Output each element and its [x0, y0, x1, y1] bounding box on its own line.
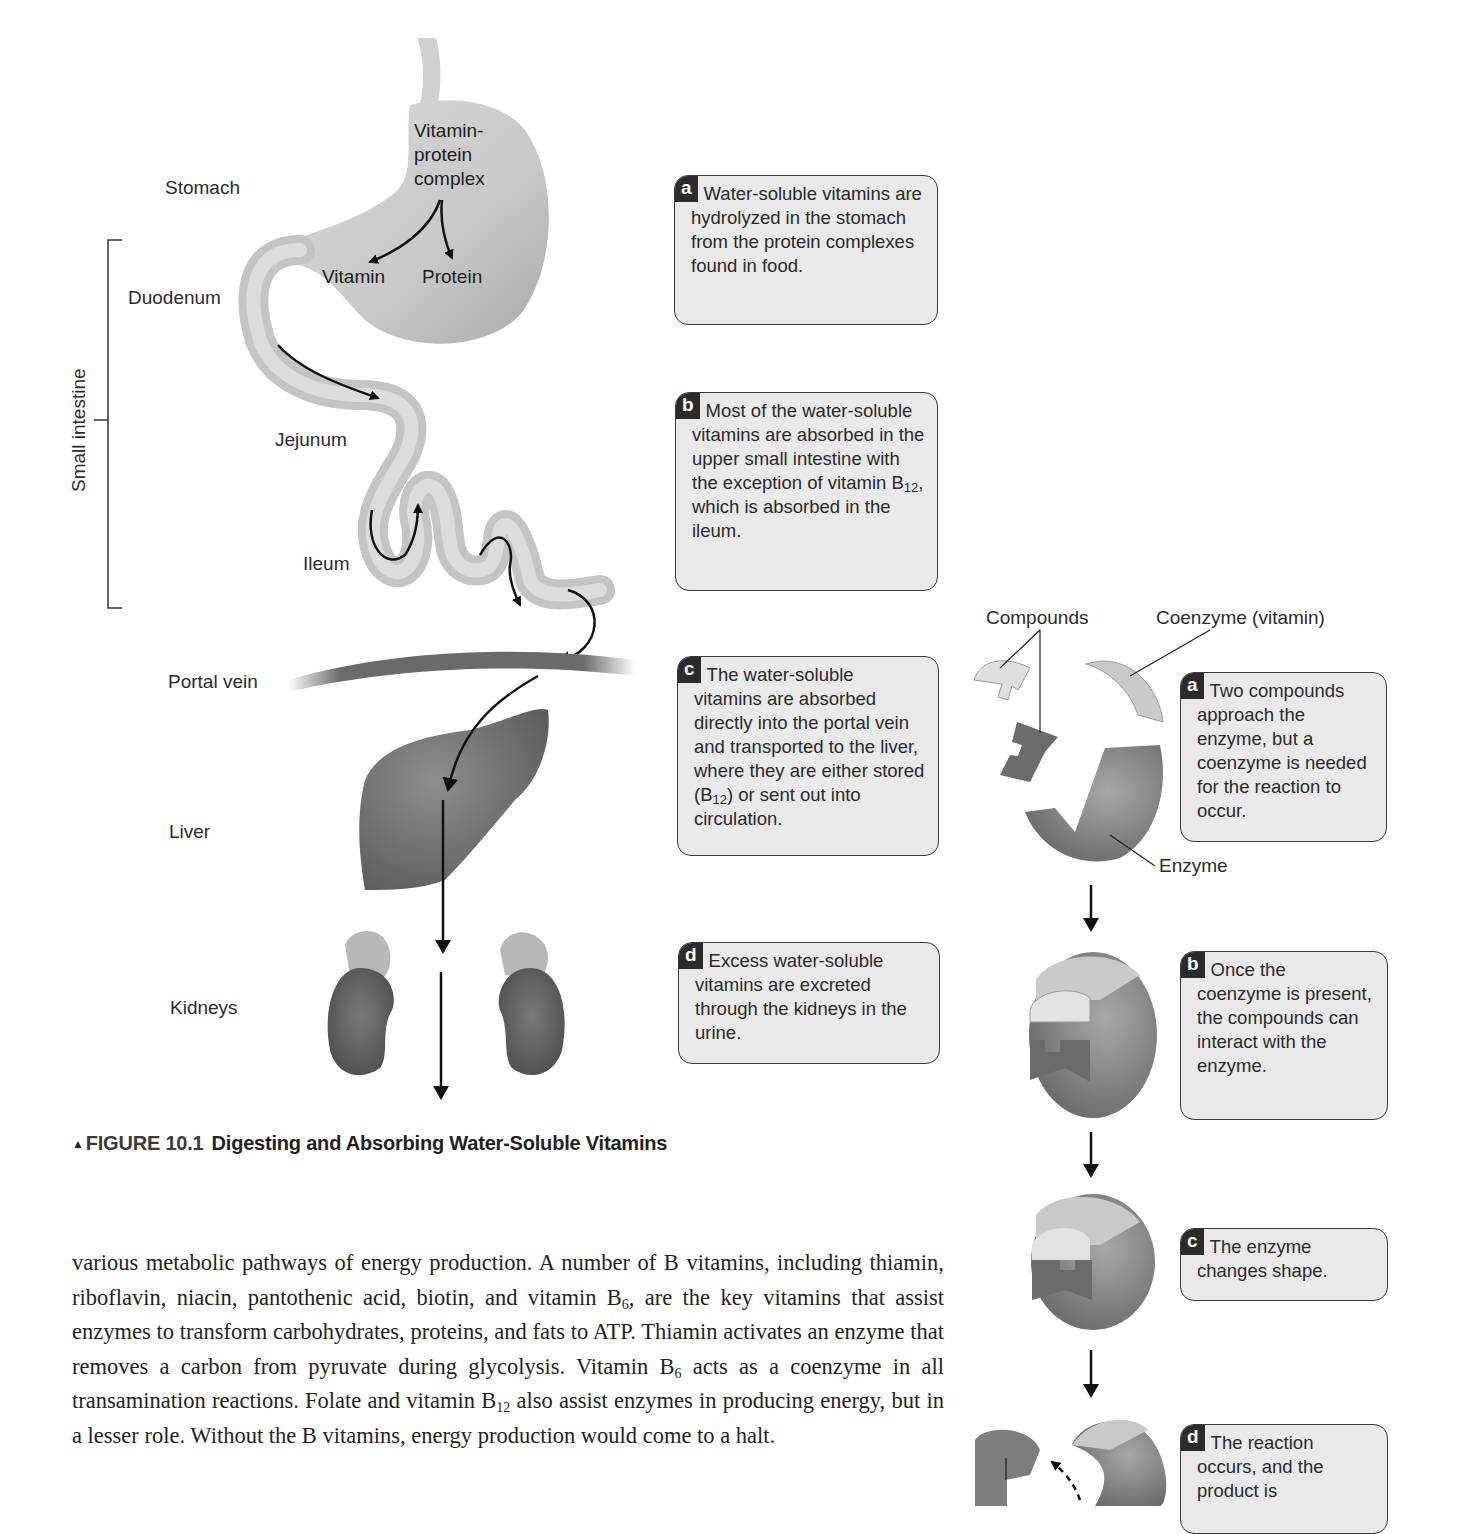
label-vitamin: Vitamin	[322, 265, 385, 289]
dashed-arrow-product	[1052, 1462, 1080, 1500]
label-kidneys: Kidneys	[170, 997, 238, 1019]
label-ileum: Ileum	[303, 553, 349, 575]
kidney-left	[328, 968, 394, 1075]
label-duodenum: Duodenum	[128, 287, 221, 309]
figure-title: Digesting and Absorbing Water-Soluble Vi…	[212, 1132, 668, 1154]
label-portal-vein: Portal vein	[168, 671, 258, 693]
product-shape	[975, 1430, 1040, 1506]
label-compounds: Compounds	[986, 607, 1088, 629]
portal-vein-shape	[288, 652, 635, 692]
callout-b-absorption: bMost of the water-soluble vitamins are …	[675, 392, 938, 591]
figure-number: FIGURE 10.1	[86, 1132, 204, 1154]
step-badge: a	[1181, 673, 1204, 699]
label-vitamin-protein-complex: Vitamin- protein complex	[414, 119, 485, 191]
step-badge: a	[675, 176, 698, 202]
callout-enzyme-c: cThe enzyme changes shape.	[1180, 1228, 1388, 1301]
liver-shape	[359, 709, 549, 890]
kidney-right	[499, 968, 565, 1075]
small-intestine-bracket	[94, 240, 122, 608]
triangle-marker-icon: ▲	[72, 1137, 84, 1151]
label-liver: Liver	[169, 821, 210, 843]
callout-enzyme-a: aTwo compounds approach the enzyme, but …	[1180, 672, 1387, 842]
step-badge: d	[679, 943, 703, 969]
callout-enzyme-d: dThe reaction occurs, and the product is	[1180, 1424, 1388, 1534]
step-badge: b	[1181, 952, 1205, 978]
callout-c-portal-vein: cThe water-soluble vitamins are absorbed…	[677, 656, 939, 856]
step-badge: b	[676, 393, 700, 419]
esophagus-shape	[417, 38, 441, 110]
body-paragraph: various metabolic pathways of energy pro…	[72, 1246, 944, 1453]
step-badge: c	[678, 657, 701, 683]
label-enzyme: Enzyme	[1159, 855, 1228, 877]
coenzyme-shape	[1086, 661, 1163, 722]
label-small-intestine: Small intestine	[68, 368, 90, 492]
label-coenzyme: Coenzyme (vitamin)	[1156, 607, 1325, 629]
coenzyme-leader-line	[1130, 630, 1210, 676]
label-jejunum: Jejunum	[275, 429, 347, 451]
label-protein: Protein	[422, 265, 482, 289]
enzyme-shape	[1025, 745, 1163, 861]
figure-caption: ▲FIGURE 10.1Digesting and Absorbing Wate…	[72, 1132, 667, 1155]
callout-enzyme-b: bOnce the coenzyme is present, the compo…	[1180, 951, 1388, 1120]
compound-dark-shape	[1000, 722, 1058, 782]
step-badge: d	[1181, 1425, 1205, 1451]
callout-d-excretion: dExcess water-soluble vitamins are excre…	[678, 942, 940, 1064]
step-badge: c	[1181, 1229, 1204, 1255]
label-stomach: Stomach	[165, 177, 240, 199]
callout-a-hydrolysis: aWater-soluble vitamins are hydrolyzed i…	[674, 175, 938, 325]
